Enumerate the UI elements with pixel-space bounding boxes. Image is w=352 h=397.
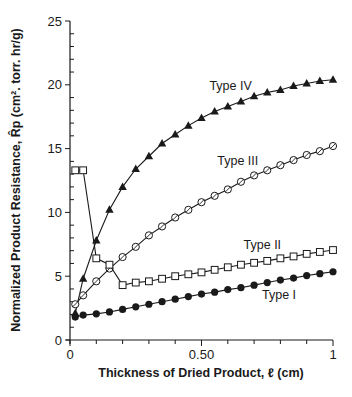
data-point (93, 310, 100, 317)
data-point (145, 301, 152, 308)
series-label-type-i: Type I (262, 288, 296, 302)
data-point (72, 313, 79, 320)
data-point (119, 306, 126, 313)
series-label-type-iv: Type IV (209, 79, 252, 93)
data-point (106, 308, 113, 315)
data-point (237, 284, 244, 291)
y-tick-label: 20 (48, 77, 62, 92)
data-point (185, 271, 192, 278)
data-point (79, 274, 87, 282)
data-point (316, 249, 323, 256)
series-label-type-iii: Type III (217, 154, 258, 168)
data-point (329, 75, 337, 83)
chart-container: 051015202500.501 Type IVType IIIType IIT… (0, 0, 352, 397)
series-group (71, 75, 337, 320)
y-tick-label: 5 (55, 269, 62, 284)
y-tick-label: 15 (48, 141, 62, 156)
data-point (198, 290, 205, 297)
data-point (264, 257, 271, 264)
data-point (72, 167, 79, 174)
data-point (264, 279, 271, 286)
line-chart: 051015202500.501 Type IVType IIIType IIT… (0, 0, 352, 397)
data-point (185, 293, 192, 300)
data-point (211, 266, 218, 273)
data-point (158, 298, 165, 305)
data-point (290, 253, 297, 260)
data-point (80, 312, 87, 319)
data-point (172, 273, 179, 280)
y-tick-label: 0 (55, 333, 62, 348)
y-axis-label: Normalized Product Resistance, R̂p (cm².… (8, 28, 23, 332)
y-tick-label: 10 (48, 205, 62, 220)
data-point (158, 139, 166, 147)
data-point (238, 261, 245, 268)
x-tick-label: 1 (329, 347, 336, 362)
data-point (93, 255, 100, 262)
series-label-type-ii: Type II (244, 238, 282, 252)
data-point (330, 247, 337, 254)
data-point (329, 268, 336, 275)
data-point (224, 286, 231, 293)
data-point (224, 264, 231, 271)
data-point (105, 205, 113, 213)
data-point (277, 255, 284, 262)
data-point (251, 259, 258, 266)
data-point (316, 270, 323, 277)
data-point (80, 167, 87, 174)
data-point (159, 275, 166, 282)
x-tick-label: 0 (66, 347, 73, 362)
data-point (172, 296, 179, 303)
data-point (277, 276, 284, 283)
axes: 051015202500.501 (48, 14, 337, 363)
x-tick-label: 0.50 (189, 347, 214, 362)
x-axis-label: Thickness of Dried Product, ℓ (cm) (98, 366, 303, 380)
data-point (119, 282, 126, 289)
data-point (184, 121, 192, 129)
data-point (106, 261, 113, 268)
data-point (211, 289, 218, 296)
data-point (171, 130, 179, 138)
series-line (75, 170, 333, 285)
data-point (303, 272, 310, 279)
data-point (290, 275, 297, 282)
y-tick-label: 25 (48, 14, 62, 29)
data-point (132, 279, 139, 286)
data-point (146, 278, 153, 285)
series-type-iv (71, 75, 337, 316)
data-point (251, 282, 258, 289)
data-point (303, 250, 310, 257)
data-point (132, 303, 139, 310)
data-point (198, 269, 205, 276)
data-point (197, 113, 205, 121)
series-type-iii (72, 142, 337, 307)
